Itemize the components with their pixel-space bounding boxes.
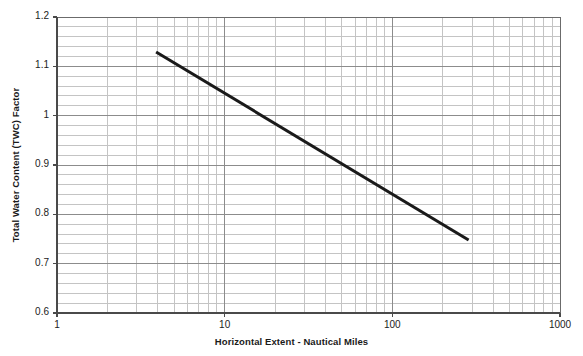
y-tick-label: 0.8: [9, 207, 49, 218]
y-tick-label: 0.9: [9, 158, 49, 169]
data-series-line: [156, 52, 468, 240]
y-tick-label: 1: [9, 109, 49, 120]
y-tick-label: 0.6: [9, 306, 49, 317]
plot-area: [0, 0, 583, 356]
x-tick-label: 100: [362, 319, 422, 330]
x-tick-label: 1000: [530, 319, 583, 330]
y-tick-label: 1.1: [9, 59, 49, 70]
twc-factor-chart: Horizontal Extent - Nautical Miles Total…: [0, 0, 583, 356]
y-tick-label: 1.2: [9, 10, 49, 21]
x-axis-title: Horizontal Extent - Nautical Miles: [0, 336, 583, 347]
x-tick-label: 1: [27, 319, 87, 330]
y-tick-label: 0.7: [9, 257, 49, 268]
x-tick-label: 10: [195, 319, 255, 330]
